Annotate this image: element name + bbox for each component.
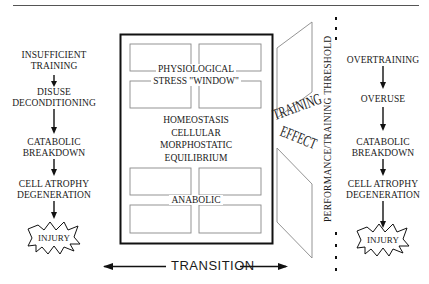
- threshold-dots: [335, 17, 337, 271]
- left-step-3-line2: BREAKDOWN: [6, 148, 102, 159]
- right-step-cell-atrophy: CELL ATROPHY DEGENERATION: [340, 179, 426, 201]
- left-step-3-line1: CATABOLIC: [6, 137, 102, 148]
- stress-window-label: PHYSIOLOGICAL STRESS "WINDOW": [150, 64, 242, 87]
- left-injury-label: INJURY: [34, 233, 74, 244]
- equilibrium-line1: HOMEOSTASIS: [140, 114, 252, 127]
- threshold-label: PERFORMANCE/TRAINING THRESHOLD: [323, 36, 333, 222]
- left-step-2-line1: DISUSE: [6, 87, 102, 98]
- window-line1: PHYSIOLOGICAL: [156, 64, 236, 74]
- right-step-3-line2: BREAKDOWN: [340, 148, 426, 159]
- left-step-2-line2: DECONDITIONING: [6, 98, 102, 109]
- right-step-4-line1: CELL ATROPHY: [340, 179, 426, 190]
- right-step-overuse: OVERUSE: [340, 94, 426, 105]
- right-step-catabolic-breakdown: CATABOLIC BREAKDOWN: [340, 137, 426, 159]
- left-step-4-line2: DEGENERATION: [6, 190, 102, 201]
- right-step-4-line2: DEGENERATION: [340, 190, 426, 201]
- left-step-catabolic-breakdown: CATABOLIC BREAKDOWN: [6, 137, 102, 159]
- right-step-overtraining: OVERTRAINING: [340, 55, 426, 66]
- equilibrium-line2: CELLULAR: [140, 127, 252, 140]
- left-step-4-line1: CELL ATROPHY: [6, 179, 102, 190]
- left-step-1-line1: INSUFFICIENT: [6, 50, 102, 61]
- equilibrium-line4: EQUILIBRIUM: [140, 152, 252, 165]
- left-step-1-line2: TRAINING: [6, 61, 102, 72]
- left-step-cell-atrophy: CELL ATROPHY DEGENERATION: [6, 179, 102, 201]
- anabolic-text: ANABOLIC: [169, 195, 222, 205]
- window-line2: STRESS "WINDOW": [151, 76, 241, 86]
- right-step-3-line1: CATABOLIC: [340, 137, 426, 148]
- equilibrium-line3: MORPHOSTATIC: [140, 139, 252, 152]
- anabolic-label: ANABOLIC: [160, 195, 232, 207]
- left-step-disuse-deconditioning: DISUSE DECONDITIONING: [6, 87, 102, 109]
- lower-panel: [277, 148, 312, 258]
- left-step-insufficient-training: INSUFFICIENT TRAINING: [6, 50, 102, 72]
- equilibrium-label: HOMEOSTASIS CELLULAR MORPHOSTATIC EQUILI…: [140, 114, 252, 164]
- transition-label: TRANSITION: [171, 258, 255, 273]
- right-injury-label: INJURY: [363, 235, 403, 246]
